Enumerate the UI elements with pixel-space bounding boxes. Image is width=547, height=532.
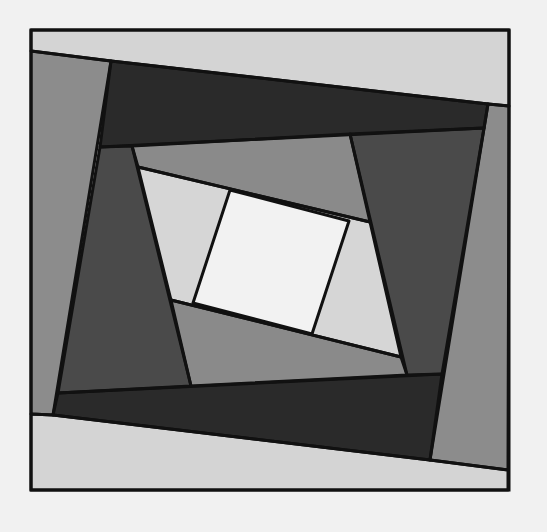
quilt-block-figure: [0, 0, 547, 532]
